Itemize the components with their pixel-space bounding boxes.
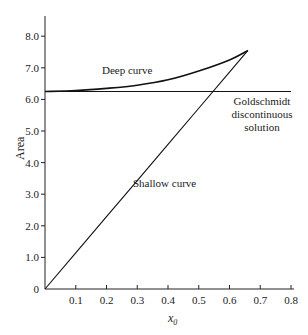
x-tick-label: 0.3 — [130, 294, 144, 306]
y-tick-label: 6.0 — [25, 93, 39, 105]
deep-curve-label: Deep curve — [102, 64, 153, 76]
y-tick-label: 2.0 — [25, 220, 39, 232]
y-tick-label: 7.0 — [25, 62, 39, 74]
x-tick-label: 0.7 — [253, 294, 267, 306]
shallow-curve-label: Shallow curve — [133, 177, 196, 189]
y-tick-label: 8.0 — [25, 30, 39, 42]
chart: 01.02.03.04.05.06.07.08.00.10.20.30.40.5… — [0, 0, 308, 335]
y-tick-label: 1.0 — [25, 251, 39, 263]
y-tick-label: 3.0 — [25, 188, 39, 200]
y-tick-label: 0 — [34, 283, 40, 295]
series — [45, 50, 291, 289]
x-tick-label: 0.4 — [161, 294, 175, 306]
goldschmidt-label-line2: discontinuous — [231, 108, 292, 120]
shallow-curve-line — [45, 50, 248, 289]
y-tick-label: 4.0 — [25, 157, 39, 169]
y-axis-title: Area — [13, 136, 27, 160]
x-tick-label: 0.8 — [284, 294, 298, 306]
x-tick-label: 0.5 — [192, 294, 206, 306]
x-tick-label: 0.2 — [100, 294, 114, 306]
x-axis-title: x0 — [167, 311, 177, 327]
x-tick-label: 0.6 — [223, 294, 237, 306]
axes — [45, 16, 294, 289]
y-tick-label: 5.0 — [25, 125, 39, 137]
goldschmidt-label-line3: solution — [244, 121, 280, 133]
goldschmidt-label-line1: Goldschmidt — [234, 95, 291, 107]
x-tick-label: 0.1 — [69, 294, 83, 306]
